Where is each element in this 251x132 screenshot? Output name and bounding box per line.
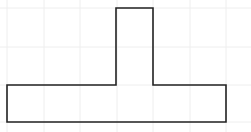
background [0,0,251,132]
t-shape-diagram [0,0,251,132]
